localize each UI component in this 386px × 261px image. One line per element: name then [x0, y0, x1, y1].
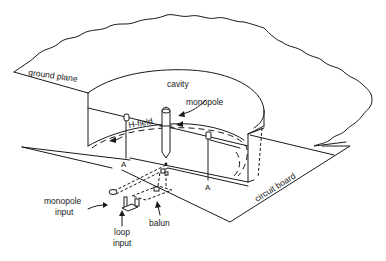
loop-probe-right-link	[210, 140, 240, 148]
balun-arrowhead	[155, 201, 161, 208]
monopole-feed-point	[165, 163, 168, 166]
loop-input-arrowhead	[119, 210, 125, 216]
h-field-inner-loop	[234, 152, 240, 176]
cavity-label: cavity	[167, 79, 189, 89]
monopole-input-arrowhead	[103, 202, 108, 208]
monopole-input-label-line2: input	[55, 207, 74, 217]
balun-label: balun	[149, 218, 170, 228]
monopole-label: monopole	[186, 97, 224, 107]
circuit-board-label: circuit board	[253, 171, 298, 204]
balun-connector-top2	[165, 172, 168, 175]
monopole-arrowhead	[178, 111, 185, 117]
monopole-input-label-line1: monopole	[44, 196, 82, 206]
section-a-right-label: A	[205, 183, 211, 192]
cavity-antenna-diagram: ground plane cavity monopole H-field A A…	[0, 0, 386, 261]
cavity-side-connector	[248, 180, 254, 182]
loop-input-label-line2: input	[113, 238, 132, 248]
h-field-arrow-left-tail	[116, 137, 122, 140]
monopole-input-leader	[88, 205, 105, 209]
monopole-top	[162, 109, 170, 113]
circuit-board-left-edge	[22, 147, 112, 168]
balun-inner	[154, 187, 159, 191]
cavity-right-dashed-edge	[258, 128, 262, 178]
loop-input-side	[135, 199, 139, 206]
section-a-left-label: A	[121, 160, 127, 169]
monopole-input-connector	[109, 190, 117, 195]
loop-input-label-line1: loop	[114, 227, 130, 237]
monopole-element	[162, 107, 170, 158]
balun-connector-top	[161, 169, 165, 173]
loop-probe-right	[206, 132, 211, 139]
ground-plane-label: ground plane	[28, 67, 79, 84]
